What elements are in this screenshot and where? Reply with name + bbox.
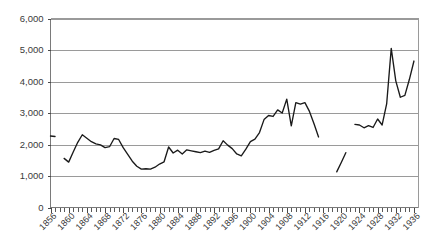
x-tick-label: 1880 xyxy=(146,211,167,232)
y-tick-label: 2,000 xyxy=(20,139,44,150)
x-tick-label: 1884 xyxy=(164,211,185,232)
y-axis-tick-labels: 01,0002,0003,0004,0005,0006,000 xyxy=(20,13,44,213)
x-tick-label: 1900 xyxy=(237,211,258,232)
y-tick-label: 0 xyxy=(38,202,43,213)
y-tick-label: 6,000 xyxy=(20,13,44,24)
y-tick-label: 3,000 xyxy=(20,107,44,118)
x-tick-label: 1916 xyxy=(310,211,331,232)
series-segment-segment-war-gap xyxy=(337,153,346,172)
x-tick-label: 1872 xyxy=(110,211,131,232)
x-tick-label: 1924 xyxy=(346,211,367,232)
x-tick-label: 1860 xyxy=(55,211,76,232)
x-tick-label: 1912 xyxy=(292,211,313,232)
data-series xyxy=(51,48,414,171)
y-tick-label: 1,000 xyxy=(20,170,44,181)
x-tick-label: 1876 xyxy=(128,211,149,232)
x-tick-label: 1928 xyxy=(364,211,385,232)
x-tick-label: 1936 xyxy=(401,211,422,232)
x-tick-label: 1856 xyxy=(37,211,58,232)
series-segment-segment-late xyxy=(355,48,414,127)
x-tick-label: 1920 xyxy=(328,211,349,232)
series-segment-segment-main xyxy=(64,99,318,169)
gridlines xyxy=(51,20,419,177)
x-tick-label: 1864 xyxy=(74,211,95,232)
x-tick-label: 1892 xyxy=(201,211,222,232)
x-axis-tick-labels: 1856186018641868187218761880188418881892… xyxy=(37,211,422,232)
x-tick-label: 1932 xyxy=(382,211,403,232)
chart-canvas: 01,0002,0003,0004,0005,0006,000 18561860… xyxy=(0,0,432,245)
y-tick-label: 5,000 xyxy=(20,44,44,55)
x-tick-label: 1888 xyxy=(183,211,204,232)
y-tick-label: 4,000 xyxy=(20,76,44,87)
x-tick-label: 1904 xyxy=(255,211,276,232)
x-tick-label: 1908 xyxy=(273,211,294,232)
x-tick-label: 1868 xyxy=(92,211,113,232)
line-chart: 01,0002,0003,0004,0005,0006,000 18561860… xyxy=(0,0,432,245)
x-tick-label: 1896 xyxy=(219,211,240,232)
